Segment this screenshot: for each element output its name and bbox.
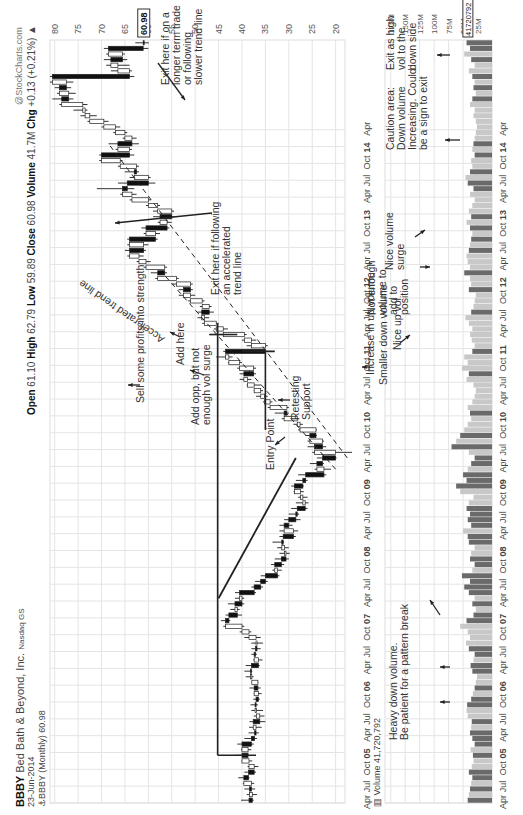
rotated-chart-stage: 8075706560555045403530252060.98175M150M1… bbox=[0, 0, 523, 815]
svg-text:Oct: Oct bbox=[362, 222, 372, 237]
annotation-add-here: Add here bbox=[175, 322, 186, 365]
annotation-exit-high-vol: Exit as high vol to the down side bbox=[385, 16, 418, 70]
svg-text:Oct: Oct bbox=[362, 761, 372, 776]
chart-date: 23-Jun-2014 bbox=[26, 756, 36, 807]
svg-text:Jul: Jul bbox=[362, 646, 372, 658]
svg-text:Jul: Jul bbox=[498, 511, 508, 523]
svg-text:Jul: Jul bbox=[498, 579, 508, 591]
svg-text:Jul: Jul bbox=[362, 377, 372, 389]
svg-text:40: 40 bbox=[237, 24, 247, 34]
svg-text:Jul: Jul bbox=[498, 713, 508, 725]
svg-text:Oct: Oct bbox=[498, 761, 508, 776]
svg-text:07: 07 bbox=[498, 614, 508, 624]
svg-text:25M: 25M bbox=[474, 18, 483, 34]
svg-text:70: 70 bbox=[97, 24, 107, 34]
annotation-caution-area: Caution area: Down volume Increasing. Co… bbox=[385, 68, 429, 150]
svg-text:Oct: Oct bbox=[362, 626, 372, 641]
annotation-exit-slow: Exit here if on a longer term trade or f… bbox=[160, 5, 204, 85]
svg-text:10: 10 bbox=[362, 412, 372, 422]
svg-text:Apr: Apr bbox=[498, 189, 508, 203]
svg-text:Apr: Apr bbox=[362, 795, 372, 809]
svg-text:Jul: Jul bbox=[498, 175, 508, 187]
annotation-add-opp: Add opp, but not enough vol surge bbox=[190, 344, 212, 425]
svg-text:Apr: Apr bbox=[362, 122, 372, 136]
svg-text:Oct: Oct bbox=[498, 559, 508, 574]
svg-text:13: 13 bbox=[362, 210, 372, 220]
svg-text:Apr: Apr bbox=[362, 458, 372, 472]
svg-text:06: 06 bbox=[362, 681, 372, 691]
annotation-nice-volume-surge: Nice volume surge bbox=[384, 212, 406, 270]
svg-text:Apr: Apr bbox=[362, 391, 372, 405]
svg-text:41720792: 41720792 bbox=[464, 3, 473, 36]
svg-text:80: 80 bbox=[50, 24, 60, 34]
svg-text:Oct: Oct bbox=[498, 155, 508, 170]
svg-text:35: 35 bbox=[260, 24, 270, 34]
svg-text:08: 08 bbox=[498, 547, 508, 557]
svg-text:Apr: Apr bbox=[498, 593, 508, 607]
svg-text:Apr: Apr bbox=[362, 526, 372, 540]
svg-text:Jul: Jul bbox=[498, 444, 508, 456]
svg-text:Jul: Jul bbox=[498, 309, 508, 321]
ohlc-summary: Open 61.10 High 62.79 Low 59.89 Close 60… bbox=[26, 25, 37, 415]
svg-text:Apr: Apr bbox=[498, 256, 508, 270]
svg-text:Jul: Jul bbox=[498, 781, 508, 793]
annotation-entry: Entry Point bbox=[265, 419, 276, 470]
svg-text:07: 07 bbox=[362, 614, 372, 624]
svg-text:13: 13 bbox=[498, 210, 508, 220]
annotation-exit-fast: Exit here if following an accelerated tr… bbox=[210, 202, 243, 295]
svg-text:14: 14 bbox=[362, 143, 372, 153]
volume-panel-label: ▥ Volume 41,720,792 bbox=[372, 718, 382, 807]
svg-text:75M: 75M bbox=[445, 18, 454, 34]
svg-text:65: 65 bbox=[120, 24, 130, 34]
svg-text:Jul: Jul bbox=[498, 242, 508, 254]
svg-text:11: 11 bbox=[498, 345, 508, 355]
svg-text:Apr: Apr bbox=[498, 324, 508, 338]
svg-text:Jul: Jul bbox=[498, 646, 508, 658]
annotation-heavy-down-volume: Heavy down volume. Be patient for a patt… bbox=[388, 604, 410, 740]
svg-text:Oct: Oct bbox=[498, 290, 508, 305]
svg-text:Apr: Apr bbox=[498, 526, 508, 540]
svg-text:Apr: Apr bbox=[498, 458, 508, 472]
annotation-sell-some: Sell some profits into strength bbox=[135, 265, 146, 403]
svg-text:Oct: Oct bbox=[362, 424, 372, 439]
watermark: @StockCharts.com bbox=[14, 27, 24, 105]
svg-text:08: 08 bbox=[362, 547, 372, 557]
svg-text:Jul: Jul bbox=[362, 713, 372, 725]
svg-text:Apr: Apr bbox=[362, 660, 372, 674]
svg-text:Jul: Jul bbox=[362, 579, 372, 591]
svg-text:25: 25 bbox=[307, 24, 317, 34]
svg-text:Oct: Oct bbox=[498, 492, 508, 507]
svg-text:100M: 100M bbox=[430, 14, 439, 34]
volume-legend-icon: ▥ bbox=[372, 798, 382, 807]
candle-legend-icon: ⚓︎ bbox=[37, 799, 47, 807]
price-volume-chart: 8075706560555045403530252060.98175M150M1… bbox=[0, 0, 523, 815]
svg-text:20: 20 bbox=[331, 24, 341, 34]
svg-text:05: 05 bbox=[498, 748, 508, 758]
svg-text:Jul: Jul bbox=[362, 511, 372, 523]
series-label: ⚓︎BBBY (Monthly) 60.98 bbox=[37, 710, 47, 807]
svg-text:05: 05 bbox=[362, 748, 372, 758]
svg-text:Jul: Jul bbox=[362, 781, 372, 793]
svg-text:Apr: Apr bbox=[362, 728, 372, 742]
svg-text:09: 09 bbox=[498, 479, 508, 489]
svg-text:Apr: Apr bbox=[498, 728, 508, 742]
svg-text:Oct: Oct bbox=[498, 626, 508, 641]
svg-text:Jul: Jul bbox=[362, 175, 372, 187]
svg-text:Jul: Jul bbox=[498, 377, 508, 389]
svg-text:Apr: Apr bbox=[362, 189, 372, 203]
svg-text:60.98: 60.98 bbox=[139, 12, 149, 35]
chart-title: BBBY Bed Bath & Beyond, Inc. Nasdaq GS bbox=[14, 608, 26, 807]
svg-text:12: 12 bbox=[498, 277, 508, 287]
svg-text:Apr: Apr bbox=[498, 660, 508, 674]
svg-text:Oct: Oct bbox=[498, 357, 508, 372]
svg-text:09: 09 bbox=[362, 479, 372, 489]
svg-text:Oct: Oct bbox=[362, 155, 372, 170]
svg-text:Apr: Apr bbox=[498, 122, 508, 136]
svg-text:30: 30 bbox=[284, 24, 294, 34]
svg-text:Oct: Oct bbox=[498, 694, 508, 709]
svg-text:Oct: Oct bbox=[362, 694, 372, 709]
svg-text:Apr: Apr bbox=[362, 593, 372, 607]
svg-text:Jul: Jul bbox=[362, 242, 372, 254]
svg-text:Oct: Oct bbox=[498, 424, 508, 439]
svg-text:75: 75 bbox=[73, 24, 83, 34]
